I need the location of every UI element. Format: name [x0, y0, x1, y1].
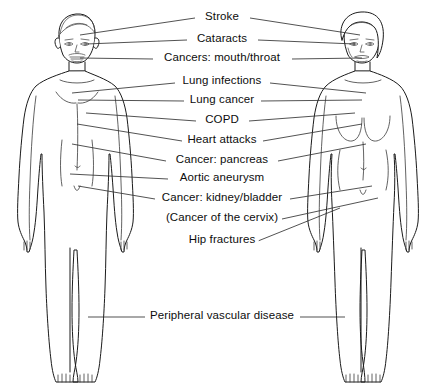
label-peripheral-vascular-disease: Peripheral vascular disease — [147, 310, 297, 322]
label-lung-infections: Lung infections — [180, 75, 265, 87]
male-figure — [18, 14, 134, 382]
female-figure — [308, 12, 419, 382]
label-cancer-cervix: (Cancer of the cervix) — [163, 212, 281, 224]
leader-cataracts-right — [258, 40, 355, 44]
label-stroke: Stroke — [202, 11, 242, 23]
label-cataracts: Cataracts — [194, 33, 250, 45]
label-cancers-mouth-throat: Cancers: mouth/throat — [161, 52, 283, 64]
leader-cataracts-left — [86, 40, 187, 44]
label-cancer-kidney-bladder: Cancer: kidney/bladder — [159, 192, 285, 204]
label-hip-fractures: Hip fractures — [186, 234, 259, 246]
leader-mouth-throat-left — [80, 58, 153, 59]
female-torso-and-limbs — [308, 71, 419, 382]
label-lung-cancer: Lung cancer — [187, 94, 257, 106]
label-aortic-aneurysm: Aortic aneurysm — [177, 172, 268, 184]
label-heart-attacks: Heart attacks — [184, 134, 259, 146]
smoking-effects-diagram: Stroke Cataracts Cancers: mouth/throat L… — [0, 0, 435, 392]
male-head — [59, 14, 95, 63]
male-torso-and-limbs — [18, 71, 134, 382]
label-copd: COPD — [202, 114, 242, 126]
leader-stroke-left — [80, 18, 195, 35]
label-cancer-pancreas: Cancer: pancreas — [173, 154, 271, 166]
